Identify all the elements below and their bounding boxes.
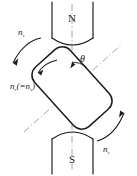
nr-paren-close: ) [31,81,35,91]
theta-label: θ [80,53,85,64]
north-pole-label: N [68,12,76,24]
ns-bottom-right-subscript: s [108,150,110,155]
ns-top-left-subscript: s [23,33,25,38]
nr-paren-open: (= [16,81,25,91]
synchronous-machine-diagram: N S θ ns nr(=ns [0,0,137,176]
rotor-outline [27,42,116,134]
ns-top-left-arrow-curve [13,38,41,63]
south-pole-label: S [69,153,75,165]
south-pole-face-arc [52,132,93,139]
nr-equals-ns-label: nr(=ns) [10,81,35,92]
ns-bottom-right-arrow-curve [97,113,124,141]
ns-top-left-arrow [13,38,41,66]
ns-top-left-label: ns [18,27,25,38]
rotor-body [27,42,116,134]
north-pole-face-arc [52,38,93,45]
figure-container: N S θ ns nr(=ns [0,0,137,176]
ns-bottom-right-label: ns [103,144,110,155]
